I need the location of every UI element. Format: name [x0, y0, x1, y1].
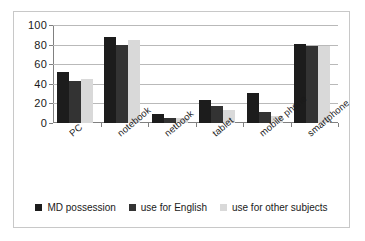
chart-legend: MD possessionuse for Englishuse for othe… [14, 202, 349, 213]
bar [57, 72, 69, 123]
bar [104, 37, 116, 123]
bar [199, 100, 211, 123]
x-tick-mark [101, 123, 102, 127]
bar-group [199, 25, 235, 123]
legend-label: use for English [141, 202, 207, 213]
category-label-PC: PC [67, 121, 84, 138]
bar [247, 93, 259, 123]
y-tick-mark [49, 64, 53, 65]
x-tick-mark [196, 123, 197, 127]
legend-label: use for other subjects [232, 202, 328, 213]
y-tick-label: 80 [34, 39, 47, 51]
y-tick-label: 0 [41, 117, 47, 129]
legend-swatch-icon [220, 204, 227, 211]
x-tick-mark [243, 123, 244, 127]
legend-label: MD possession [47, 202, 115, 213]
bar [116, 45, 128, 123]
x-tick-mark [148, 123, 149, 127]
legend-swatch-icon [129, 204, 136, 211]
y-tick-mark [49, 84, 53, 85]
y-tick-mark [49, 25, 53, 26]
legend-item: MD possession [35, 202, 115, 213]
x-tick-mark [338, 123, 339, 127]
legend-item: use for other subjects [220, 202, 328, 213]
y-axis-line [53, 25, 54, 123]
bar [152, 114, 164, 123]
bar [306, 46, 318, 123]
x-tick-mark [291, 123, 292, 127]
legend-swatch-icon [35, 204, 42, 211]
legend-item: use for English [129, 202, 207, 213]
y-tick-label: 60 [34, 58, 47, 70]
bar-group [104, 25, 140, 123]
chart-figure: 020406080100 PCnotebooknetbooktabletmobi… [13, 11, 350, 228]
bar-group [57, 25, 93, 123]
y-tick-label: 20 [34, 97, 47, 109]
bar [69, 81, 81, 123]
bar-group [152, 25, 188, 123]
y-tick-label: 100 [28, 19, 47, 31]
y-tick-mark [49, 103, 53, 104]
plot-area: 020406080100 PCnotebooknetbooktabletmobi… [53, 25, 338, 123]
y-tick-mark [49, 45, 53, 46]
bar [81, 79, 93, 123]
y-tick-mark [49, 123, 53, 124]
y-tick-label: 40 [34, 78, 47, 90]
bar-group [247, 25, 283, 123]
